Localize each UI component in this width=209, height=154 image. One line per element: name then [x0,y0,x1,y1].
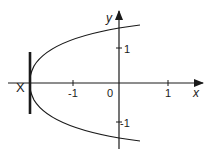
x-axis-label: x [192,86,200,100]
x-tick-label-1: 1 [165,87,171,99]
y-axis-label: y [105,11,113,25]
parabola-diagram: X -1 0 1 1 -1 x y [0,0,209,154]
origin-label: 0 [107,87,113,99]
x-tick-label-neg1: -1 [68,87,78,99]
y-tick-label-neg1: -1 [120,117,130,129]
point-label-x: X [16,80,25,95]
y-tick-label-1: 1 [124,43,130,55]
